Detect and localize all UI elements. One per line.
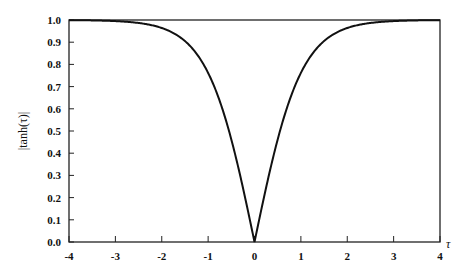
x-tick-label: 2 xyxy=(345,250,351,262)
x-tick-label: -4 xyxy=(64,250,74,262)
plot-border xyxy=(69,20,440,242)
y-tick-label: 0.7 xyxy=(47,81,61,93)
x-tick-label: -1 xyxy=(204,250,213,262)
x-tick-label: 3 xyxy=(391,250,397,262)
data-line xyxy=(69,20,440,242)
y-axis-label: |tanh(τ)| xyxy=(16,112,30,150)
x-tick-label: 4 xyxy=(437,250,443,262)
y-tick-label: 0.9 xyxy=(47,36,61,48)
y-tick-label: 0.3 xyxy=(47,169,61,181)
x-tick-label: -3 xyxy=(111,250,121,262)
y-tick-label: 0.4 xyxy=(47,147,61,159)
y-tick-label: 0.0 xyxy=(47,236,61,248)
y-axis-ticks: 0.00.10.20.30.40.50.60.70.80.91.0 xyxy=(47,14,74,248)
x-tick-label: 1 xyxy=(298,250,304,262)
y-tick-label: 0.5 xyxy=(47,125,61,137)
y-tick-label: 1.0 xyxy=(47,14,61,26)
x-tick-label: 0 xyxy=(252,250,258,262)
chart: 0.00.10.20.30.40.50.60.70.80.91.0 -4-3-2… xyxy=(0,0,471,277)
y-tick-label: 0.1 xyxy=(47,214,61,226)
x-tick-label: -2 xyxy=(157,250,167,262)
y-tick-label: 0.8 xyxy=(47,58,61,70)
x-axis-label: τ xyxy=(446,237,451,251)
plot-frame xyxy=(69,20,440,242)
y-tick-label: 0.6 xyxy=(47,103,61,115)
y-tick-label: 0.2 xyxy=(47,192,61,204)
